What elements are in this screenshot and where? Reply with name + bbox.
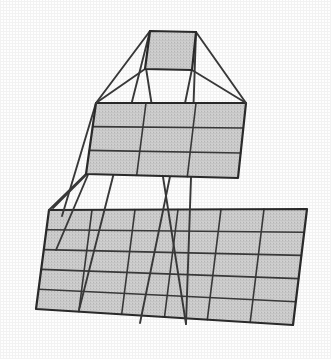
grid-plane-diagram — [0, 0, 331, 359]
top-plane — [145, 31, 196, 70]
top-plane-fill — [145, 31, 196, 70]
middle-plane-fill — [86, 103, 246, 178]
figure-canvas: Multi-resolution grid plane projection d… — [0, 0, 331, 359]
middle-plane — [86, 103, 246, 178]
